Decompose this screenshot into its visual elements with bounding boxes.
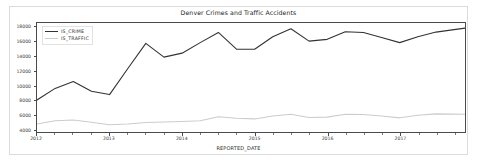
x-axis-tick-mark (400, 133, 401, 136)
x-axis-tick: 2017 (395, 136, 407, 141)
x-axis-minor-tick (145, 133, 146, 135)
x-axis-minor-tick (54, 133, 55, 135)
x-axis-minor-tick (72, 133, 73, 135)
x-axis-minor-tick (364, 133, 365, 135)
x-axis-minor-tick (236, 133, 237, 135)
x-axis-label: REPORTED_DATE (0, 145, 477, 151)
x-axis-minor-tick (309, 133, 310, 135)
x-axis-minor-tick (127, 133, 128, 135)
x-axis-tick-mark (109, 133, 110, 136)
x-axis-minor-tick (382, 133, 383, 135)
x-axis-minor-tick (437, 133, 438, 135)
x-axis-tick-mark (255, 133, 256, 136)
plot-clip (37, 23, 465, 132)
x-axis-tick-mark (36, 133, 37, 136)
chart-figure: Denver Crimes and Traffic Accidents 4000… (0, 0, 477, 163)
legend-color-swatch (45, 38, 58, 39)
x-axis-minor-tick (164, 133, 165, 135)
x-axis-tick: 2012 (30, 136, 42, 141)
legend-label: IS_CRIME (61, 29, 84, 34)
x-axis-tick: 2015 (249, 136, 261, 141)
x-axis-minor-tick (200, 133, 201, 135)
chart-legend: IS_CRIMEIS_TRAFFIC (42, 26, 93, 45)
series-lines (37, 23, 465, 132)
legend-color-swatch (45, 31, 58, 32)
legend-label: IS_TRAFFIC (61, 36, 89, 41)
x-axis-tick-mark (182, 133, 183, 136)
x-axis-minor-tick (218, 133, 219, 135)
series-line-is-crime (37, 28, 465, 100)
x-axis-tick-mark (328, 133, 329, 136)
x-axis-minor-tick (273, 133, 274, 135)
series-line-is-traffic (37, 114, 465, 125)
legend-item[interactable]: IS_CRIME (45, 28, 89, 35)
legend-item[interactable]: IS_TRAFFIC (45, 35, 89, 42)
x-axis-tick: 2014 (176, 136, 188, 141)
x-axis-tick: 2013 (103, 136, 115, 141)
x-axis-minor-tick (419, 133, 420, 135)
x-axis-minor-tick (291, 133, 292, 135)
plot-area (36, 22, 466, 133)
x-axis-minor-tick (346, 133, 347, 135)
x-axis-minor-tick (455, 133, 456, 135)
x-axis-tick: 2016 (322, 136, 334, 141)
x-axis-minor-tick (91, 133, 92, 135)
